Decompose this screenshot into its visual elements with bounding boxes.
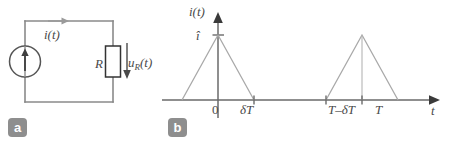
part-badge-a: a — [8, 118, 27, 137]
panel-b-waveform: i(t) î 0 δT T–δT T t b — [160, 0, 449, 144]
voltage-label: uR(t) — [128, 56, 152, 72]
voltage-label-arg: (t) — [140, 55, 152, 70]
axis-label-i: i(t) — [189, 5, 205, 18]
current-source-symbol — [10, 46, 41, 77]
current-direction-arrow — [48, 18, 69, 25]
axis-label-t: t — [431, 104, 435, 117]
waveform-plot-svg — [160, 0, 449, 144]
part-badge-b: b — [168, 118, 187, 137]
axis-t — [162, 95, 440, 105]
tick-label-deltaT: δT — [240, 103, 253, 116]
resistor-body — [106, 46, 121, 77]
tick-label-zero: 0 — [212, 103, 219, 116]
figure-container: i(t) R uR(t) a — [0, 0, 449, 144]
axis-i-arrowhead — [213, 12, 223, 23]
tick-label-T: T — [375, 103, 382, 116]
tick-label-T-minus-deltaT: T–δT — [328, 103, 355, 116]
current-label: i(t) — [44, 28, 60, 41]
panel-a-circuit: i(t) R uR(t) a — [0, 0, 160, 144]
resistor-label: R — [95, 57, 103, 70]
peak-value-label: î — [196, 29, 200, 42]
